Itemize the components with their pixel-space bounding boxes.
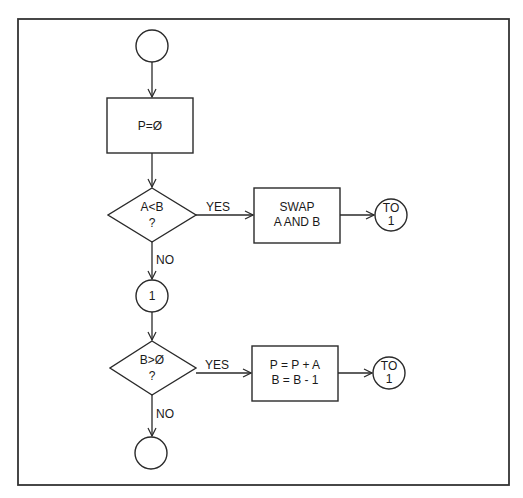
- decision1-diamond: A<B ?: [108, 188, 196, 242]
- update-label-line1: P = P + A: [270, 358, 320, 372]
- diagram-frame: [18, 19, 509, 485]
- swap-label-line2: A AND B: [274, 215, 321, 229]
- decision2-no-label: NO: [156, 407, 174, 421]
- swap-label-line1: SWAP: [280, 200, 315, 214]
- update-label-line2: B = B - 1: [271, 373, 318, 387]
- flowchart-canvas: P=Ø A<B ? YES SWAP A AND B TO 1 NO 1 B>Ø…: [0, 0, 523, 498]
- start-terminal: [136, 30, 168, 62]
- goto1b-line2: 1: [386, 372, 393, 386]
- goto1a-line1: TO: [383, 201, 399, 215]
- decision2-yes-label: YES: [205, 358, 229, 372]
- goto-connector-1b: TO 1: [373, 357, 405, 389]
- goto1a-line2: 1: [388, 214, 395, 228]
- decision1-question-mark: ?: [149, 216, 156, 230]
- init-process-box: P=Ø: [107, 98, 193, 153]
- goto1b-line1: TO: [381, 359, 397, 373]
- decision2-diamond: B>Ø ?: [110, 341, 196, 395]
- swap-process-box: SWAP A AND B: [254, 188, 340, 243]
- connector1-label: 1: [149, 289, 156, 303]
- init-label: P=Ø: [138, 119, 162, 133]
- connector-1: 1: [136, 280, 168, 312]
- decision1-condition: A<B: [140, 200, 163, 214]
- decision1-yes-label: YES: [206, 200, 230, 214]
- update-process-box: P = P + A B = B - 1: [252, 346, 338, 401]
- decision2-condition: B>Ø: [140, 353, 164, 367]
- goto-connector-1a: TO 1: [375, 199, 407, 231]
- end-terminal: [135, 437, 167, 469]
- decision1-no-label: NO: [156, 253, 174, 267]
- decision2-question-mark: ?: [149, 369, 156, 383]
